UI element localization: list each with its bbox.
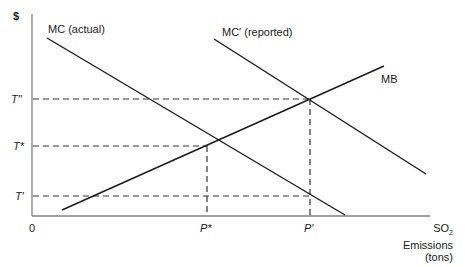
p-prime-label: P′ — [304, 222, 313, 234]
mb-line — [62, 66, 384, 210]
x-axis-label-line3: (tons) — [403, 251, 453, 263]
y-axis-label: $ — [13, 10, 19, 22]
mb-label: MB — [381, 73, 398, 85]
x-axis-label-line1: SO2 — [403, 222, 453, 239]
t-double-prime-label: T′′ — [11, 93, 22, 105]
origin-label: 0 — [29, 222, 35, 234]
x-axis-so: SO — [433, 222, 449, 234]
mc-reported-label: MC′ (reported) — [222, 26, 293, 38]
mc-actual-line — [47, 38, 345, 215]
x-axis-label: SO2 Emissions (tons) — [403, 222, 453, 263]
mc-actual-label: MC (actual) — [48, 23, 105, 35]
t-prime-label: T′ — [15, 190, 24, 202]
t-star-label: T* — [13, 140, 24, 152]
x-axis-subscript: 2 — [449, 229, 453, 236]
marginal-cost-benefit-diagram — [0, 0, 465, 267]
mc-reported-line — [214, 39, 426, 174]
p-star-label: P* — [200, 222, 212, 234]
x-axis-label-line2: Emissions — [403, 239, 453, 251]
